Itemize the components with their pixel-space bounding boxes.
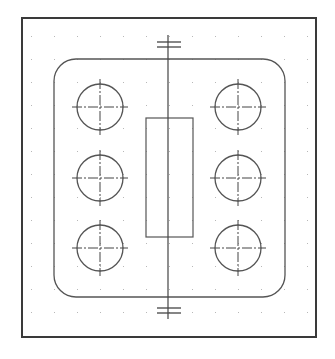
grid-dot [77, 82, 78, 83]
grid-dot [261, 266, 262, 267]
grid-dot [284, 289, 285, 290]
grid-dot [100, 36, 101, 37]
grid-dot [307, 197, 308, 198]
grid-dots [31, 36, 308, 313]
grid-dot [77, 289, 78, 290]
grid-dot [192, 105, 193, 106]
grid-dot [31, 289, 32, 290]
grid-dot [307, 312, 308, 313]
grid-dot [215, 289, 216, 290]
grid-dot [261, 220, 262, 221]
grid-dot [146, 289, 147, 290]
grid-dot [261, 151, 262, 152]
grid-dot [100, 105, 101, 106]
grid-dot [238, 266, 239, 267]
grid-dot [77, 128, 78, 129]
grid-dot [192, 82, 193, 83]
grid-dot [146, 266, 147, 267]
grid-dot [261, 128, 262, 129]
grid-dot [169, 82, 170, 83]
grid-dot [123, 312, 124, 313]
grid-dot [31, 128, 32, 129]
grid-dot [307, 151, 308, 152]
hole [72, 220, 128, 276]
grid-dot [77, 197, 78, 198]
grid-dot [123, 82, 124, 83]
grid-dot [31, 197, 32, 198]
grid-dot [284, 36, 285, 37]
grid-dot [261, 82, 262, 83]
grid-dot [238, 289, 239, 290]
cad-drawing [0, 0, 335, 359]
grid-dot [192, 36, 193, 37]
drawing-canvas [0, 0, 335, 359]
grid-dot [54, 36, 55, 37]
grid-dot [261, 312, 262, 313]
grid-dot [307, 220, 308, 221]
grid-dot [215, 312, 216, 313]
grid-dot [169, 128, 170, 129]
grid-dot [307, 174, 308, 175]
grid-dot [192, 289, 193, 290]
grid-dot [123, 128, 124, 129]
grid-dot [192, 312, 193, 313]
grid-dot [261, 289, 262, 290]
grid-dot [215, 151, 216, 152]
grid-dot [31, 174, 32, 175]
grid-dot [100, 266, 101, 267]
grid-dot [307, 36, 308, 37]
grid-dot [215, 197, 216, 198]
grid-dot [307, 59, 308, 60]
grid-dot [31, 312, 32, 313]
grid-dot [307, 243, 308, 244]
grid-dot [123, 36, 124, 37]
grid-dot [123, 151, 124, 152]
grid-dot [307, 289, 308, 290]
grid-dot [238, 312, 239, 313]
grid-dot [238, 105, 239, 106]
grid-dot [31, 105, 32, 106]
grid-dot [146, 105, 147, 106]
grid-dot [238, 197, 239, 198]
grid-dot [284, 312, 285, 313]
grid-dot [169, 220, 170, 221]
grid-dot [146, 36, 147, 37]
grid-dot [238, 36, 239, 37]
grid-dot [54, 312, 55, 313]
hole [210, 220, 266, 276]
grid-dot [307, 82, 308, 83]
grid-dot [169, 197, 170, 198]
grid-dot [54, 289, 55, 290]
grid-dot [146, 312, 147, 313]
hole [72, 79, 128, 135]
grid-dot [31, 266, 32, 267]
grid-dot [169, 243, 170, 244]
grid-dot [77, 220, 78, 221]
grid-dot [77, 36, 78, 37]
grid-dot [54, 59, 55, 60]
grid-dot [215, 266, 216, 267]
grid-dot [169, 36, 170, 37]
grid-dot [215, 82, 216, 83]
grid-dot [169, 174, 170, 175]
grid-dot [307, 128, 308, 129]
grid-dot [307, 266, 308, 267]
grid-dot [77, 266, 78, 267]
grid-dot [169, 151, 170, 152]
grid-dot [169, 266, 170, 267]
grid-dot [100, 289, 101, 290]
grid-dot [169, 289, 170, 290]
grid-dot [77, 312, 78, 313]
grid-dot [31, 36, 32, 37]
grid-dot [31, 59, 32, 60]
grid-dot [192, 243, 193, 244]
grid-dot [284, 59, 285, 60]
grid-dot [146, 243, 147, 244]
grid-dot [192, 266, 193, 267]
grid-dot [31, 82, 32, 83]
grid-dot [31, 243, 32, 244]
grid-dot [123, 220, 124, 221]
mounting-holes [72, 79, 266, 276]
hole [210, 79, 266, 135]
grid-dot [215, 220, 216, 221]
